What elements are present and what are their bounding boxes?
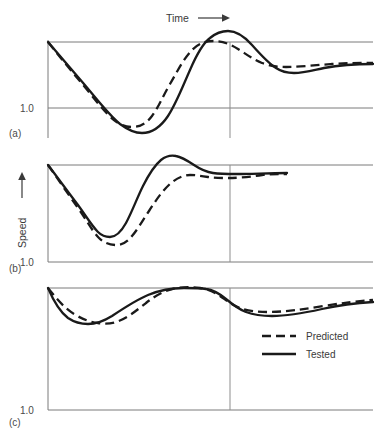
legend-item-tested: Tested [262, 349, 335, 360]
legend-label-tested: Tested [306, 349, 335, 360]
speed-response-figure: Time Speed 1.0 (a) [0, 0, 384, 439]
arrow-up-icon [18, 172, 26, 180]
panel-a [48, 31, 373, 138]
legend: Predicted Tested [262, 331, 348, 360]
panel-c-caption: (c) [9, 417, 21, 428]
panel-b-curve-predicted [48, 165, 287, 245]
panel-b [48, 156, 373, 262]
x-axis-label: Time [166, 12, 189, 24]
panel-a-caption: (a) [9, 128, 21, 139]
y-axis-label-group: Speed [16, 172, 28, 248]
panel-c-curve-tested [48, 288, 373, 324]
panel-b-tick-label: 1.0 [20, 257, 34, 268]
x-axis-label-group: Time [166, 12, 230, 24]
panel-c-tick-label: 1.0 [20, 405, 34, 416]
panel-a-tick-label: 1.0 [20, 103, 34, 114]
panel-a-curve-predicted [48, 41, 373, 127]
panel-a-curve-tested [48, 31, 373, 133]
arrow-right-icon [222, 14, 230, 22]
y-axis-label: Speed [16, 217, 28, 248]
panel-b-curve-tested [48, 156, 287, 237]
legend-item-predicted: Predicted [262, 331, 348, 342]
legend-label-predicted: Predicted [306, 331, 348, 342]
panel-c-curve-predicted [48, 287, 373, 323]
panel-b-caption: (b) [9, 263, 21, 274]
